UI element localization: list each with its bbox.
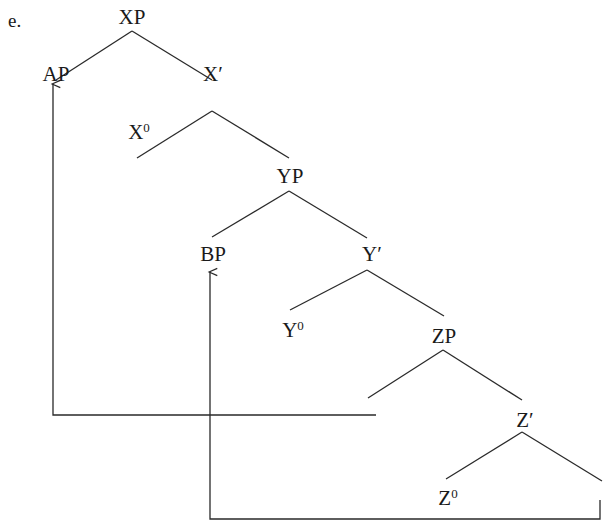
tree-branch xyxy=(522,432,602,481)
node-label: Y′ xyxy=(362,242,382,266)
tree-branch xyxy=(212,191,289,237)
node-yp: YP xyxy=(277,166,304,187)
node-label: Z′ xyxy=(516,408,533,432)
node-superscript: 0 xyxy=(143,120,150,135)
node-superscript: 0 xyxy=(297,318,304,333)
node-xp: XP xyxy=(119,7,146,28)
tree-branch xyxy=(290,270,367,310)
node-label: X′ xyxy=(203,62,223,86)
node-label: Y xyxy=(282,318,297,342)
tree-branch xyxy=(289,191,367,238)
tree-branch xyxy=(132,31,212,80)
node-z-bar: Z′ xyxy=(516,410,533,431)
tree-branch xyxy=(367,270,444,316)
movement-arrows xyxy=(53,84,600,519)
tree-branch xyxy=(443,350,522,400)
node-label: YP xyxy=(277,164,304,188)
node-z0: Z0 xyxy=(438,488,457,509)
node-bp: BP xyxy=(200,244,226,265)
node-zp: ZP xyxy=(432,326,457,347)
movement-arrow-to-bp xyxy=(210,272,600,519)
tree-branch xyxy=(212,111,289,158)
node-y-bar: Y′ xyxy=(362,244,382,265)
node-x-bar: X′ xyxy=(203,64,223,85)
tree-branch xyxy=(446,432,522,479)
node-x0: X0 xyxy=(128,122,150,143)
node-label: Z xyxy=(438,486,451,510)
node-label: BP xyxy=(200,242,226,266)
tree-branch xyxy=(368,350,443,398)
node-label: XP xyxy=(119,5,146,29)
node-ap: AP xyxy=(43,64,70,85)
syntax-tree xyxy=(0,0,609,523)
node-superscript: 0 xyxy=(451,486,458,501)
node-label: X xyxy=(128,120,143,144)
node-y0: Y0 xyxy=(282,320,304,341)
node-label: AP xyxy=(43,62,70,86)
node-label: ZP xyxy=(432,324,457,348)
